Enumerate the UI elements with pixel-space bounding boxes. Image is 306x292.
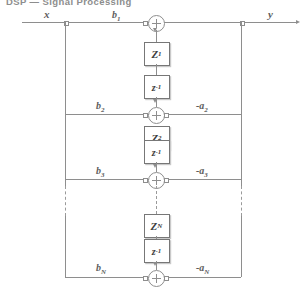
label-b1: b1 bbox=[112, 9, 121, 23]
running-header: DSP — Signal Processing bbox=[6, 0, 132, 7]
rail-input-upper bbox=[65, 22, 66, 186]
sum-junction-N bbox=[148, 270, 165, 287]
arrow-into-sum1 bbox=[153, 28, 157, 32]
tap-sum2-right bbox=[164, 113, 169, 118]
label-input-x: x bbox=[44, 8, 50, 20]
continuation-dots-right bbox=[241, 186, 242, 216]
label-aN: -aN bbox=[196, 262, 209, 276]
block-delay-2: z-1 bbox=[144, 140, 170, 164]
tap-sum3-right bbox=[164, 178, 169, 183]
sum-junction-3 bbox=[148, 172, 165, 189]
continuation-dots-left bbox=[65, 186, 66, 216]
block-gain-ZN: ZN bbox=[144, 214, 170, 238]
rail-output-lower bbox=[241, 216, 242, 277]
arrow-into-sum2 bbox=[153, 99, 157, 103]
rail-input-lower bbox=[65, 216, 66, 277]
label-b3: b3 bbox=[96, 165, 105, 179]
rail-output-upper bbox=[241, 22, 242, 186]
label-bN: bN bbox=[96, 262, 106, 276]
block-delay-1: z-1 bbox=[144, 75, 170, 99]
label-b2: b2 bbox=[96, 100, 105, 114]
block-gain-Z1: Z1 bbox=[144, 42, 170, 66]
wire-Z1-to-delay1 bbox=[156, 64, 157, 75]
label-a3: -a3 bbox=[196, 165, 208, 179]
arrow-into-sum3 bbox=[153, 164, 157, 168]
tap-sumN-right bbox=[164, 276, 169, 281]
label-output-y: y bbox=[268, 8, 273, 20]
figure-canvas: DSP — Signal Processing x y b1 Z1 z-1 b2… bbox=[0, 0, 306, 292]
continuation-dots-center bbox=[156, 186, 157, 214]
label-a2: -a2 bbox=[196, 100, 208, 114]
arrow-output bbox=[296, 20, 300, 24]
sum-junction-2 bbox=[148, 107, 165, 124]
arrow-into-sumN bbox=[153, 262, 157, 266]
block-delay-N: z-1 bbox=[144, 239, 170, 263]
